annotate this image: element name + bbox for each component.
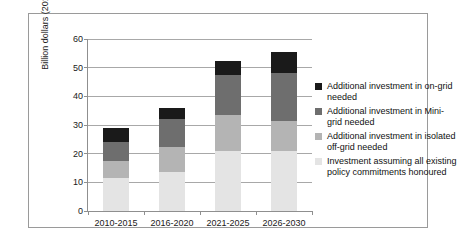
x-axis-tick-label: 2026-2030 (262, 218, 305, 228)
x-axis-tick-label: 2021-2025 (206, 218, 249, 228)
bar-segment[interactable] (215, 75, 241, 115)
y-axis-tick-mark (84, 67, 88, 68)
legend-item-label: Additional investment in isolated off-gr… (327, 131, 457, 153)
x-axis-tick-mark (144, 211, 145, 215)
bar-segment[interactable] (103, 142, 129, 161)
bar-stack[interactable] (159, 108, 185, 211)
legend-item[interactable]: Additional investment in isolated off-gr… (315, 131, 457, 153)
legend-item-label: Additional investment in Mini-grid neede… (327, 106, 457, 128)
y-axis-title: Billion dollars (2010) (38, 0, 52, 89)
gridline (88, 39, 312, 40)
legend-item[interactable]: Additional investment in on-grid needed (315, 81, 457, 103)
y-axis-tick-label: 20 (73, 149, 83, 159)
legend-swatch-off-grid (315, 133, 322, 140)
bar-stack[interactable] (103, 128, 129, 211)
x-axis-tick-mark (256, 211, 257, 215)
bar-segment[interactable] (215, 115, 241, 151)
x-axis-tick-label: 2010-2015 (94, 218, 137, 228)
y-axis-tick-label: 10 (73, 177, 83, 187)
legend-swatch-on-grid (315, 83, 322, 90)
legend-swatch-mini-grid (315, 108, 322, 115)
y-axis-tick-mark (84, 96, 88, 97)
bar-segment[interactable] (159, 108, 185, 119)
y-axis-tick-label: 40 (73, 91, 83, 101)
bar-segment[interactable] (271, 52, 297, 74)
bar-segment[interactable] (159, 147, 185, 173)
x-axis-tick-mark (312, 211, 313, 215)
y-axis-tick-mark (84, 39, 88, 40)
bar-segment[interactable] (271, 73, 297, 120)
y-axis-tick-mark (84, 182, 88, 183)
y-axis-tick-label: 0 (78, 206, 83, 216)
x-axis-tick-mark (88, 211, 89, 215)
legend-item-label: Additional investment in on-grid needed (327, 81, 457, 103)
bar-segment[interactable] (103, 178, 129, 211)
bar-stack[interactable] (271, 52, 297, 211)
x-axis-tick-mark (200, 211, 201, 215)
bar-stack[interactable] (215, 61, 241, 211)
legend-swatch-existing-policy (315, 158, 322, 165)
x-axis-tick-label: 2016-2020 (150, 218, 193, 228)
bar-segment[interactable] (103, 128, 129, 142)
bar-segment[interactable] (159, 172, 185, 211)
chart-frame: Billion dollars (2010) 0102030405060 201… (28, 13, 428, 228)
y-axis-tick-mark (84, 125, 88, 126)
y-axis-tick-label: 50 (73, 63, 83, 73)
bar-segment[interactable] (271, 151, 297, 211)
chart-legend: Additional investment in on-grid neededA… (315, 81, 457, 181)
legend-item-label: Investment assuming all existing policy … (327, 156, 457, 178)
legend-item[interactable]: Additional investment in Mini-grid neede… (315, 106, 457, 128)
y-axis-tick-mark (84, 153, 88, 154)
bar-segment[interactable] (271, 121, 297, 151)
plot-area: 0102030405060 2010-20152016-20202021-202… (88, 39, 312, 211)
y-axis-tick-label: 30 (73, 120, 83, 130)
bar-segment[interactable] (103, 161, 129, 178)
legend-item[interactable]: Investment assuming all existing policy … (315, 156, 457, 178)
bar-segment[interactable] (215, 61, 241, 75)
bar-segment[interactable] (215, 151, 241, 211)
y-axis-tick-label: 60 (73, 34, 83, 44)
bar-segment[interactable] (159, 119, 185, 146)
